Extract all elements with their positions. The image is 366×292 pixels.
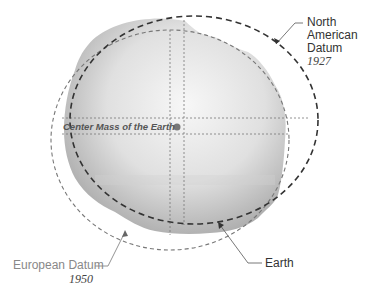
european-arrow-icon [122,230,128,237]
european-datum-year: 1950 [69,273,93,286]
nad-year: 1927 [307,55,358,68]
nad-label: North American Datum 1927 [307,16,358,68]
center-mass-label: Center Mass of the Earth [63,121,175,132]
european-datum-label: European Datum [13,259,104,272]
earth-label: Earth [265,257,294,270]
